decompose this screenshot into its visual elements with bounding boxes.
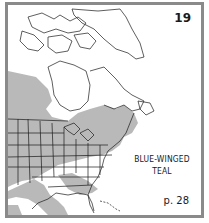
species-label: BLUE-WINGED TEAL xyxy=(133,153,191,177)
range-map xyxy=(8,5,201,215)
species-name-line1: BLUE-WINGED xyxy=(133,153,191,165)
page-reference: p. 28 xyxy=(164,195,189,206)
map-frame: 19 BLUE-WINGED TEAL p. 28 xyxy=(5,2,204,218)
species-name-line2: TEAL xyxy=(133,165,191,177)
plate-number: 19 xyxy=(174,11,191,25)
range-shading xyxy=(8,71,138,215)
